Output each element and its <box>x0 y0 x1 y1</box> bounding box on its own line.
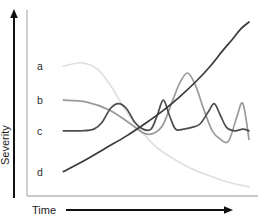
severity-axis-arrow <box>10 9 18 198</box>
x-axis-title: Time <box>32 204 56 216</box>
plot-frame <box>27 10 258 196</box>
series-layer <box>63 22 249 187</box>
curve-label-d: d <box>37 166 43 178</box>
severity-time-line-chart: Severity Time abcd <box>0 0 264 221</box>
curve-label-b: b <box>37 94 43 106</box>
time-axis-arrow <box>66 206 233 214</box>
curve-label-c: c <box>37 125 42 137</box>
y-axis-title: Severity <box>0 125 11 165</box>
series-curve-a <box>63 63 249 187</box>
chart-screenshot: Severity Time abcd <box>0 0 264 221</box>
curve-label-a: a <box>37 60 43 72</box>
series-curve-d <box>63 22 249 172</box>
series-curve-b <box>63 73 249 143</box>
curve-label-layer: abcd <box>37 60 43 177</box>
